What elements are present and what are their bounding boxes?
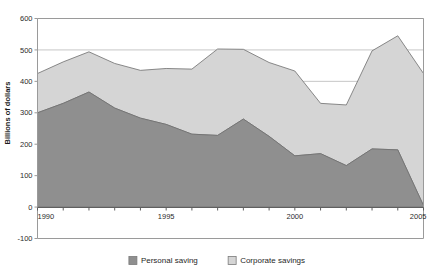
x-tick-label-1990: 1990 [38,212,55,221]
stacked-area-chart: 1990199520002005 -1000100200300400500600… [0,0,443,275]
y-tick-label-600: 600 [20,14,33,23]
y-axis-title: Billions of dollars [3,82,12,145]
y-tick-label-300: 300 [20,108,33,117]
legend-label: Personal saving [141,256,198,265]
legend-label: Corporate savings [240,256,305,265]
y-tick-label-100: 100 [20,171,33,180]
legend-swatch-icon [228,257,236,265]
y-tick-label-500: 500 [20,46,33,55]
y-tick-label--100: -100 [17,234,32,243]
y-tick-label-400: 400 [20,77,33,86]
y-tick-label-200: 200 [20,140,33,149]
x-tick-label-2000: 2000 [286,212,303,221]
x-tick-label-2005: 2005 [410,212,427,221]
legend-swatch-icon [129,257,137,265]
chart-canvas: 1990199520002005 -1000100200300400500600… [0,0,443,275]
x-tick-label-1995: 1995 [158,212,175,221]
y-tick-label-0: 0 [28,203,32,212]
legend-item-corporate-savings[interactable]: Corporate savings [228,256,305,265]
